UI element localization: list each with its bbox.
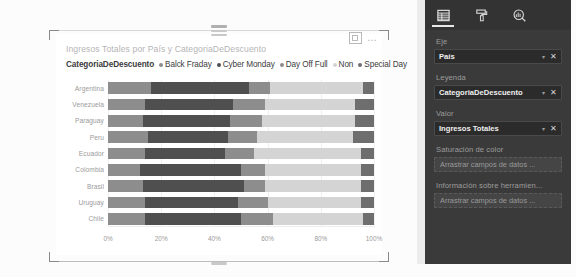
visual-drag-handle[interactable] [211, 25, 227, 36]
bar-segment[interactable] [265, 164, 361, 175]
bar-segment[interactable] [108, 131, 148, 142]
bar-segment[interactable] [225, 148, 254, 159]
y-axis-label-text: Argentina [75, 85, 104, 92]
legend-item[interactable]: Day Off Full [280, 60, 328, 69]
stacked-bar[interactable] [108, 213, 374, 224]
bar-segment[interactable] [108, 164, 140, 175]
selection-handle-bottom-right[interactable] [379, 252, 389, 262]
analytics-tab[interactable] [509, 4, 529, 26]
more-options-icon[interactable]: … [367, 34, 378, 42]
bar-segment[interactable] [273, 213, 363, 224]
bar-segment[interactable] [355, 99, 374, 110]
selection-handle-top-right[interactable] [379, 30, 389, 40]
bar-segment[interactable] [230, 115, 262, 126]
stacked-bar[interactable] [108, 82, 374, 93]
field-dropzone-placeholder: Arrastrar campos de datos ... [440, 196, 535, 205]
x-axis-tick-label: 40% [208, 235, 221, 242]
stacked-bar[interactable] [108, 99, 374, 110]
plot-area: ArgentinaVenezuelaParaguayPeruEcuadorCol… [66, 80, 374, 227]
field-pill[interactable]: País▾✕ [434, 49, 562, 64]
bar-segment[interactable] [268, 197, 361, 208]
bars-area[interactable] [108, 80, 374, 227]
bar-segment[interactable] [151, 82, 249, 93]
fields-icon [436, 8, 451, 23]
close-icon[interactable]: ✕ [550, 53, 557, 61]
selection-handle-bottom-left[interactable] [49, 252, 59, 262]
bar-segment[interactable] [108, 180, 143, 191]
bar-segment[interactable] [361, 148, 374, 159]
legend-item[interactable]: Balck Fraday [159, 60, 212, 69]
bar-segment[interactable] [228, 131, 257, 142]
bar-segment[interactable] [241, 164, 265, 175]
pane-tab-bar[interactable] [425, 0, 571, 30]
bar-segment[interactable] [254, 148, 360, 159]
bar-segment[interactable] [363, 82, 374, 93]
stacked-bar[interactable] [108, 197, 374, 208]
legend-item[interactable]: Non [333, 60, 354, 69]
bar-segment[interactable] [241, 213, 273, 224]
bar-segment[interactable] [353, 131, 374, 142]
bar-segment[interactable] [249, 82, 270, 93]
stacked-bar[interactable] [108, 115, 374, 126]
chart-visual-container[interactable]: … Ingresos Totales por País y CategoriaD… [56, 34, 382, 255]
bar-segment[interactable] [108, 99, 145, 110]
bar-segment[interactable] [140, 164, 241, 175]
field-dropzone[interactable]: Arrastrar campos de datos ... [434, 157, 562, 172]
stacked-bar[interactable] [108, 164, 374, 175]
legend-item-label: Non [339, 60, 354, 69]
bar-segment[interactable] [238, 197, 267, 208]
bar-segment[interactable] [265, 99, 355, 110]
y-axis-label-text: Peru [90, 134, 104, 141]
chevron-down-icon[interactable]: ▾ [542, 125, 545, 132]
selection-handle-top-left[interactable] [49, 30, 59, 40]
chevron-down-icon[interactable]: ▾ [542, 89, 545, 96]
visualizations-pane[interactable]: EjePaís▾✕LeyendaCategoriaDeDescuento▾✕Va… [425, 0, 571, 264]
field-dropzone[interactable]: Arrastrar campos de datos ... [434, 193, 562, 208]
bar-segment[interactable] [108, 82, 151, 93]
bar-segment[interactable] [108, 213, 145, 224]
bar-segment[interactable] [262, 115, 355, 126]
pane-field-buckets[interactable]: EjePaís▾✕LeyendaCategoriaDeDescuento▾✕Va… [425, 30, 571, 264]
bar-segment[interactable] [108, 197, 145, 208]
legend-item-label: Day Off Full [286, 60, 328, 69]
field-pill[interactable]: CategoriaDeDescuento▾✕ [434, 85, 562, 100]
bar-segment[interactable] [145, 197, 238, 208]
bar-segment[interactable] [265, 180, 361, 191]
focus-mode-icon[interactable] [349, 32, 362, 44]
legend-swatch-icon [280, 63, 284, 67]
bar-segment[interactable] [257, 131, 353, 142]
stacked-bar[interactable] [108, 148, 374, 159]
legend-item[interactable]: Cyber Monday [217, 60, 275, 69]
bar-segment[interactable] [145, 148, 225, 159]
format-tab[interactable] [471, 4, 491, 26]
fields-tab[interactable] [433, 4, 453, 26]
legend-item-label: Cyber Monday [223, 60, 275, 69]
close-icon[interactable]: ✕ [550, 89, 557, 97]
visual-title: Ingresos Totales por País y CategoriaDeD… [66, 44, 372, 54]
bar-segment[interactable] [143, 180, 244, 191]
bar-segment[interactable] [361, 180, 374, 191]
stacked-bar[interactable] [108, 180, 374, 191]
bar-segment[interactable] [145, 213, 241, 224]
bar-segment[interactable] [148, 131, 228, 142]
bar-segment[interactable] [233, 99, 265, 110]
bar-segment[interactable] [244, 180, 265, 191]
bar-segment[interactable] [145, 99, 233, 110]
bar-segment[interactable] [108, 148, 145, 159]
bar-segment[interactable] [361, 197, 374, 208]
gridline [374, 80, 375, 227]
stacked-bar[interactable] [108, 131, 374, 142]
legend-item[interactable]: Special Day [358, 60, 407, 69]
horizontal-scroll-nub[interactable] [211, 262, 227, 265]
bar-segment[interactable] [361, 164, 374, 175]
bar-segment[interactable] [108, 115, 143, 126]
field-pill[interactable]: Ingresos Totales▾✕ [434, 121, 562, 136]
legend-swatch-icon [217, 63, 221, 67]
bar-segment[interactable] [355, 115, 374, 126]
bar-segment[interactable] [143, 115, 231, 126]
visual-actions: … [349, 32, 378, 44]
bar-segment[interactable] [363, 213, 374, 224]
chevron-down-icon[interactable]: ▾ [542, 53, 545, 60]
close-icon[interactable]: ✕ [550, 125, 557, 133]
bar-segment[interactable] [270, 82, 363, 93]
